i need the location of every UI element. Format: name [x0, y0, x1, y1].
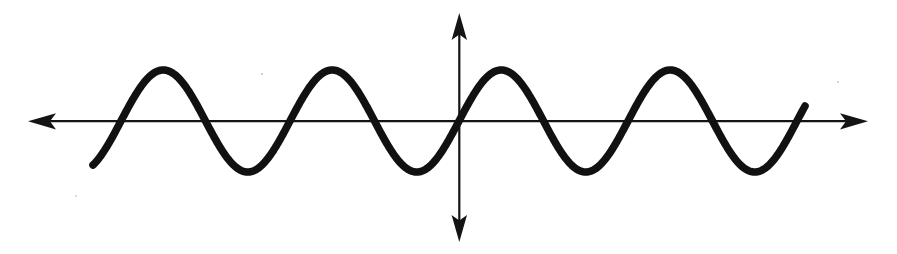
paper-background — [0, 0, 897, 254]
figure-canvas — [0, 0, 897, 254]
sine-wave-diagram — [0, 0, 897, 254]
